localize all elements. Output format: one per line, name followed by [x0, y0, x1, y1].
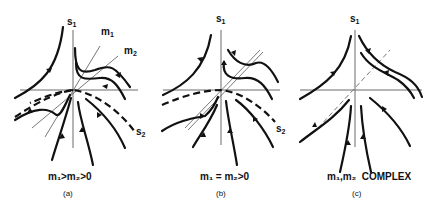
trajectory: [163, 35, 211, 95]
panel-c-label: (c): [352, 189, 362, 198]
phase-portrait-figure: s1 m1 m2 s2 m₁>m₂>0 (a) s1 s2 m₁ = m₂>0 …: [0, 0, 437, 207]
trajectory: [52, 98, 71, 160]
eigenvector-double-line: [185, 50, 260, 128]
trajectory: [193, 105, 217, 147]
axis-label-s1: s1: [216, 13, 226, 25]
panel-c: s1 m₁,m₂ COMPLEX (c): [300, 13, 422, 198]
eigen-label-m2: m2: [124, 45, 137, 57]
axis-label-s1: s1: [350, 13, 360, 25]
trajectory: [78, 102, 93, 165]
separatrix-s2: [162, 90, 275, 122]
panel-a-condition: m₁>m₂>0: [48, 171, 92, 182]
panel-a-label: (a): [63, 189, 73, 198]
trajectory: [340, 106, 351, 172]
direction-arrow-icon: [102, 84, 108, 89]
panel-b-condition: m₁ = m₂>0: [200, 171, 250, 182]
panel-b: s1 s2 m₁ = m₂>0 (b): [162, 13, 286, 198]
trajectory: [15, 95, 70, 120]
trajectory: [86, 99, 125, 148]
direction-arrow-icon: [227, 128, 233, 133]
axis-label-s2: s2: [136, 126, 146, 138]
direction-arrow-icon: [221, 60, 227, 65]
trajectory: [15, 27, 63, 98]
trajectory: [75, 48, 130, 87]
axis-label-s2: s2: [276, 123, 286, 135]
eigen-label-m1: m1: [101, 26, 114, 38]
axis-label-s1: s1: [67, 16, 77, 28]
panel-c-condition: m₁,m₂ COMPLEX: [327, 171, 411, 182]
direction-arrow-icon: [200, 113, 205, 119]
trajectory: [236, 100, 273, 147]
panel-a: s1 m1 m2 s2 m₁>m₂>0 (a): [15, 16, 146, 198]
trajectory: [370, 98, 410, 146]
direction-arrow-icon: [312, 122, 317, 127]
panel-b-label: (b): [216, 189, 226, 198]
trajectory: [359, 36, 422, 97]
